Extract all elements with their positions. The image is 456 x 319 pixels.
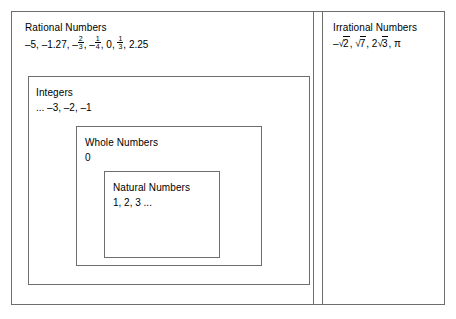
natural-numbers-members: 1, 2, 3 ... [113, 196, 190, 210]
rational-member-lead: –5, –1.27, [25, 39, 72, 50]
radicand: 2 [343, 36, 350, 51]
rational-sep-2: , 0, [101, 39, 118, 50]
fraction-one-fourth: 14 [95, 35, 101, 51]
fraction-one-third: 13 [117, 35, 123, 51]
radicand: 7 [360, 36, 367, 51]
radical-sqrt-7: √7 [355, 36, 366, 51]
rational-numbers-label: Rational Numbers –5, –1.27, –23, –14, 0,… [25, 21, 148, 52]
fraction-numerator: 1 [95, 35, 101, 42]
irrational-numbers-members: –√2, √7, 2√3, π [333, 36, 417, 51]
fraction-denominator: 4 [95, 42, 101, 51]
irrational-numbers-panel [322, 11, 445, 305]
whole-numbers-title: Whole Numbers [85, 136, 158, 150]
integers-title: Integers [36, 86, 92, 100]
irrational-numbers-label: Irrational Numbers –√2, √7, 2√3, π [333, 21, 417, 51]
rational-numbers-members: –5, –1.27, –23, –14, 0, 13, 2.25 [25, 36, 148, 52]
irrational-numbers-title: Irrational Numbers [333, 21, 417, 35]
natural-numbers-title: Natural Numbers [113, 181, 190, 195]
radical-sqrt-2: √2 [339, 36, 350, 51]
whole-numbers-label: Whole Numbers 0 [85, 136, 158, 165]
radical-sqrt-3: √3 [377, 36, 388, 51]
natural-numbers-label: Natural Numbers 1, 2, 3 ... [113, 181, 190, 210]
fraction-numerator: 2 [78, 35, 84, 42]
integers-label: Integers ... –3, –2, –1 [36, 86, 92, 115]
rational-numbers-title: Rational Numbers [25, 21, 148, 35]
fraction-denominator: 3 [78, 42, 84, 51]
whole-numbers-members: 0 [85, 151, 158, 165]
fraction-numerator: 1 [117, 35, 123, 42]
pi-symbol: π [394, 38, 401, 49]
fraction-denominator: 3 [117, 42, 123, 51]
integers-members: ... –3, –2, –1 [36, 101, 92, 115]
number-sets-diagram: Rational Numbers –5, –1.27, –23, –14, 0,… [0, 0, 456, 319]
radicand: 3 [382, 36, 389, 51]
fraction-two-thirds: 23 [78, 35, 84, 51]
rational-sep-3: , 2.25 [123, 39, 148, 50]
